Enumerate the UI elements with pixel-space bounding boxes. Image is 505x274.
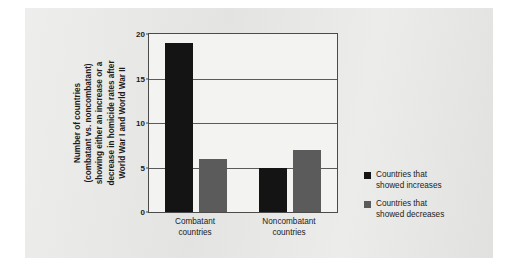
x-axis-category-label-0: Combatant countries [145,217,245,238]
y-axis-title-line-1: Number of countries [72,28,83,218]
bar-noncombatant-countries-decreases [293,150,321,212]
legend-swatch-decreases-icon [364,201,371,208]
y-tick-mark-15 [146,78,149,79]
x-axis-category-0-line-2: countries [145,228,245,239]
legend-swatch-increases-icon [364,172,371,179]
x-axis-category-1-line-2: countries [239,228,339,239]
chart-screenshot: Number of countries (combatant vs. nonco… [0,0,505,274]
legend-label-decreases-line-2: showed decreases [376,210,444,221]
x-axis-category-1-line-1: Noncombatant [239,217,339,228]
y-axis-title-line-3: showing either an increase or a [94,28,105,218]
y-tick-label-10: 10 [136,119,145,128]
legend-label-increases-line-2: showed increases [376,181,442,192]
x-axis-category-label-1: Noncombatant countries [239,217,339,238]
legend-label-increases-line-1: Countries that [376,170,442,181]
y-tick-mark-20 [146,34,149,35]
plot-area: 05101520 [148,33,338,213]
y-tick-mark-0 [146,212,149,213]
y-axis-title-line-4: decrease in homicide rates after [106,28,117,218]
y-axis-title-line-2: (combatant vs. noncombatant) [83,28,94,218]
y-axis-title: Number of countries (combatant vs. nonco… [57,28,143,218]
y-axis-title-line-5: World War I and World War II [117,28,128,218]
y-tick-label-0: 0 [141,208,145,217]
y-tick-mark-10 [146,123,149,124]
bar-combatant-countries-decreases [199,159,227,212]
legend-entry-decreases: Countries that showed decreases [364,199,494,220]
legend-label-decreases-line-1: Countries that [376,199,444,210]
bar-noncombatant-countries-increases [259,168,287,213]
y-tick-mark-5 [146,167,149,168]
y-tick-label-15: 15 [136,74,145,83]
legend-entry-increases: Countries that showed increases [364,170,494,191]
bar-combatant-countries-increases [165,43,193,212]
y-tick-label-20: 20 [136,30,145,39]
y-tick-label-5: 5 [141,163,145,172]
x-axis-category-0-line-1: Combatant [145,217,245,228]
legend: Countries that showed increases Countrie… [364,170,494,228]
